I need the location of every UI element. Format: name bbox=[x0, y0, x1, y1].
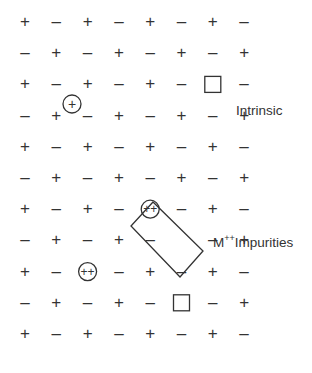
anion-minus: – bbox=[80, 295, 96, 311]
cation-plus: + bbox=[142, 14, 158, 30]
impurities-label-text: Impurities bbox=[235, 235, 294, 250]
cation-plus: + bbox=[236, 45, 252, 61]
cation-plus: + bbox=[17, 76, 33, 92]
anion-minus: – bbox=[80, 232, 96, 248]
impurity-metal-symbol: M bbox=[213, 235, 224, 250]
anion-minus: – bbox=[236, 201, 252, 217]
anion-minus: – bbox=[174, 139, 190, 155]
cation-plus: + bbox=[111, 232, 127, 248]
anion-minus: – bbox=[48, 76, 64, 92]
anion-minus: – bbox=[142, 170, 158, 186]
cation-plus: + bbox=[48, 232, 64, 248]
anion-minus: – bbox=[48, 14, 64, 30]
cation-plus: + bbox=[111, 45, 127, 61]
anion-minus: – bbox=[142, 295, 158, 311]
anion-minus: – bbox=[236, 76, 252, 92]
anion-minus: – bbox=[111, 201, 127, 217]
cation-plus: + bbox=[142, 76, 158, 92]
anion-minus: – bbox=[111, 139, 127, 155]
anion-minus: – bbox=[48, 139, 64, 155]
anion-minus: – bbox=[111, 14, 127, 30]
cation-plus: + bbox=[80, 139, 96, 155]
anion-minus: – bbox=[48, 264, 64, 280]
anion-minus: – bbox=[236, 139, 252, 155]
anion-minus: – bbox=[111, 264, 127, 280]
anion-minus: – bbox=[17, 45, 33, 61]
cation-plus: + bbox=[174, 108, 190, 124]
cation-plus: + bbox=[174, 45, 190, 61]
vacancy-square bbox=[174, 295, 190, 311]
cation-plus: + bbox=[17, 139, 33, 155]
cation-plus: + bbox=[205, 326, 221, 342]
cation-plus: + bbox=[174, 170, 190, 186]
cation-plus: + bbox=[205, 264, 221, 280]
cation-plus: + bbox=[111, 108, 127, 124]
cation-plus: + bbox=[17, 326, 33, 342]
anion-minus: – bbox=[142, 45, 158, 61]
anion-minus: – bbox=[236, 264, 252, 280]
cation-plus: + bbox=[48, 108, 64, 124]
anion-minus: – bbox=[48, 326, 64, 342]
cation-plus: + bbox=[48, 170, 64, 186]
anion-minus: – bbox=[17, 232, 33, 248]
anion-minus: – bbox=[174, 201, 190, 217]
anion-minus: – bbox=[205, 45, 221, 61]
cation-plus: + bbox=[111, 170, 127, 186]
anion-minus: – bbox=[205, 170, 221, 186]
cation-plus: + bbox=[142, 264, 158, 280]
anion-minus: – bbox=[174, 14, 190, 30]
cation-plus: + bbox=[236, 295, 252, 311]
cation-plus: + bbox=[17, 14, 33, 30]
intrinsic-label-text: Intrinsic bbox=[236, 103, 283, 118]
vacancy-square bbox=[205, 76, 221, 92]
impurity-charge: ++ bbox=[224, 233, 235, 243]
impurities-label: M++Impurities bbox=[213, 233, 293, 250]
anion-minus: – bbox=[174, 326, 190, 342]
cation-plus: + bbox=[80, 326, 96, 342]
anion-minus: – bbox=[17, 295, 33, 311]
intrinsic-label: Intrinsic bbox=[236, 103, 283, 118]
cation-plus: + bbox=[236, 170, 252, 186]
cation-plus: + bbox=[205, 139, 221, 155]
cation-plus: + bbox=[17, 264, 33, 280]
anion-minus: – bbox=[236, 326, 252, 342]
cation-plus: + bbox=[17, 201, 33, 217]
cation-plus: + bbox=[80, 76, 96, 92]
lattice-diagram: +++++ +–+–+–+––+–+–+–++–+–+–––+–+–+–++–+… bbox=[0, 0, 312, 373]
cation-plus: + bbox=[142, 326, 158, 342]
cation-plus: + bbox=[205, 14, 221, 30]
cation-plus: + bbox=[80, 14, 96, 30]
anion-minus: – bbox=[111, 76, 127, 92]
anion-minus: – bbox=[205, 108, 221, 124]
cation-plus: + bbox=[111, 295, 127, 311]
anion-minus: – bbox=[80, 45, 96, 61]
cation-plus: + bbox=[205, 201, 221, 217]
anion-minus: – bbox=[48, 201, 64, 217]
anion-minus: – bbox=[80, 170, 96, 186]
anion-minus: – bbox=[205, 295, 221, 311]
anion-minus: – bbox=[142, 232, 158, 248]
anion-minus: – bbox=[236, 14, 252, 30]
cation-plus: + bbox=[80, 201, 96, 217]
impurity-charge-text: ++ bbox=[81, 265, 95, 279]
cation-plus: + bbox=[142, 139, 158, 155]
anion-minus: – bbox=[142, 108, 158, 124]
interstitial-plus: + bbox=[68, 96, 76, 112]
anion-minus: – bbox=[174, 76, 190, 92]
anion-minus: – bbox=[174, 264, 190, 280]
anion-minus: – bbox=[111, 326, 127, 342]
anion-minus: – bbox=[17, 108, 33, 124]
cation-plus: + bbox=[48, 45, 64, 61]
anion-minus: – bbox=[80, 108, 96, 124]
anion-minus: – bbox=[17, 170, 33, 186]
cation-plus: + bbox=[48, 295, 64, 311]
